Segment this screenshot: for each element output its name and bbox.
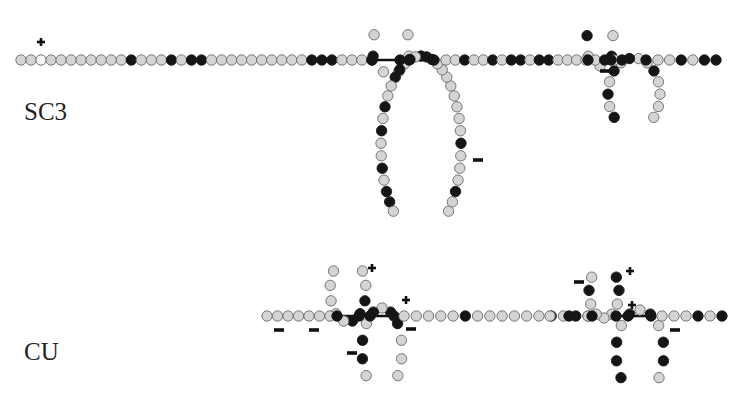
bead-light bbox=[369, 30, 379, 40]
bead-light bbox=[96, 55, 106, 65]
bead-dark bbox=[367, 55, 377, 65]
bead-light bbox=[326, 296, 336, 306]
bead-light bbox=[571, 55, 581, 65]
bead-light bbox=[262, 311, 272, 321]
bead-light bbox=[376, 151, 386, 161]
bead-dark bbox=[354, 311, 364, 321]
bead-light bbox=[399, 311, 409, 321]
negative-charge-mark bbox=[406, 327, 416, 331]
bead-light bbox=[357, 55, 367, 65]
negative-charge-mark bbox=[347, 351, 357, 355]
bead-light bbox=[226, 55, 236, 65]
bead-light bbox=[176, 55, 186, 65]
negative-charge-mark bbox=[574, 280, 584, 284]
bead-light bbox=[26, 55, 36, 65]
bead-light bbox=[361, 280, 371, 290]
bead-dark bbox=[582, 30, 592, 40]
bead-light bbox=[347, 55, 357, 65]
bead-dark bbox=[616, 372, 626, 382]
bead-light bbox=[553, 55, 563, 65]
bead-light bbox=[379, 175, 389, 185]
bead-light bbox=[357, 266, 367, 276]
bead-light bbox=[86, 55, 96, 65]
bead-dark bbox=[487, 55, 497, 65]
bead-dark bbox=[564, 311, 574, 321]
bead-light bbox=[283, 311, 293, 321]
bead-dark bbox=[327, 55, 337, 65]
bead-light bbox=[452, 102, 462, 112]
bead-light bbox=[688, 55, 698, 65]
bead-light bbox=[386, 81, 396, 91]
bead-light bbox=[304, 311, 314, 321]
bead-dark bbox=[450, 186, 460, 196]
bead-light bbox=[612, 299, 622, 309]
structure-cu bbox=[262, 264, 727, 383]
bead-dark bbox=[459, 55, 469, 65]
bead-light bbox=[604, 77, 614, 87]
bead-light bbox=[423, 311, 433, 321]
bead-light bbox=[396, 354, 406, 364]
bead-light bbox=[669, 311, 679, 321]
bead-dark bbox=[583, 55, 593, 65]
bead-dark bbox=[693, 311, 703, 321]
bead-light bbox=[383, 91, 393, 101]
bead-dark bbox=[357, 354, 367, 364]
bead-dark bbox=[332, 311, 342, 321]
bead-light bbox=[411, 311, 421, 321]
bead-light bbox=[267, 55, 277, 65]
bead-light bbox=[56, 55, 66, 65]
bead-light bbox=[447, 197, 457, 207]
bead-light bbox=[287, 55, 297, 65]
bead-light bbox=[478, 55, 488, 65]
bead-dark bbox=[365, 311, 375, 321]
bead-light bbox=[655, 89, 665, 99]
structure-label-cu: CU bbox=[24, 338, 59, 366]
bead-dark bbox=[460, 311, 470, 321]
bead-dark bbox=[404, 55, 414, 65]
bead-light bbox=[36, 55, 46, 65]
negative-charge-mark bbox=[670, 328, 680, 332]
bead-light bbox=[448, 311, 458, 321]
bead-light bbox=[136, 55, 146, 65]
bead-dark bbox=[543, 55, 553, 65]
bead-dark bbox=[456, 138, 466, 148]
bead-light bbox=[562, 55, 572, 65]
bead-light bbox=[653, 101, 663, 111]
bead-light bbox=[657, 311, 667, 321]
bead-light bbox=[403, 30, 413, 40]
bead-dark bbox=[360, 296, 370, 306]
bead-dark bbox=[711, 55, 721, 65]
positive-charge-mark bbox=[405, 296, 408, 304]
bead-dark bbox=[717, 311, 727, 321]
bead-light bbox=[246, 55, 256, 65]
bead-light bbox=[325, 280, 335, 290]
bead-light bbox=[328, 266, 338, 276]
bead-dark bbox=[617, 55, 627, 65]
bead-dark bbox=[609, 112, 619, 122]
negative-charge-mark bbox=[309, 328, 319, 332]
bead-dark bbox=[429, 55, 439, 65]
bead-light bbox=[393, 370, 403, 380]
bead-light bbox=[256, 55, 266, 65]
bead-dark bbox=[646, 311, 656, 321]
bead-light bbox=[337, 55, 347, 65]
bead-light bbox=[497, 55, 507, 65]
bead-light bbox=[681, 311, 691, 321]
bead-light bbox=[654, 372, 664, 382]
bead-dark bbox=[166, 55, 176, 65]
bead-dark bbox=[377, 163, 387, 173]
bead-light bbox=[378, 113, 388, 123]
bead-dark bbox=[611, 272, 621, 282]
negative-charge-mark bbox=[600, 69, 610, 73]
bead-light bbox=[521, 311, 531, 321]
bead-dark bbox=[186, 55, 196, 65]
bead-light bbox=[545, 311, 555, 321]
bead-light bbox=[146, 55, 156, 65]
bead-dark bbox=[381, 186, 391, 196]
bead-dark bbox=[614, 285, 624, 295]
bead-light bbox=[76, 55, 86, 65]
bead-light bbox=[66, 55, 76, 65]
positive-charge-mark bbox=[629, 267, 632, 275]
bead-dark bbox=[609, 66, 619, 76]
bead-light bbox=[653, 55, 663, 65]
